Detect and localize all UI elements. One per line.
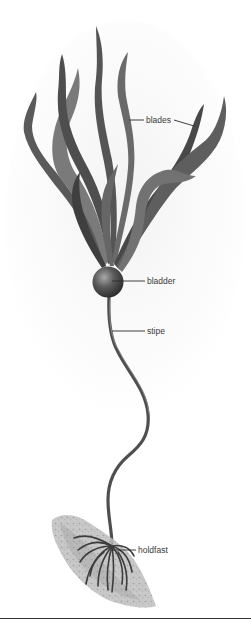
bladder (93, 267, 124, 298)
label-stipe: stipe (147, 326, 165, 336)
label-bladder: bladder (147, 276, 176, 286)
label-holdfast: holdfast (138, 545, 168, 555)
kelp-diagram: blades bladder stipe holdfast (0, 0, 251, 628)
label-blades: blades (146, 115, 171, 125)
